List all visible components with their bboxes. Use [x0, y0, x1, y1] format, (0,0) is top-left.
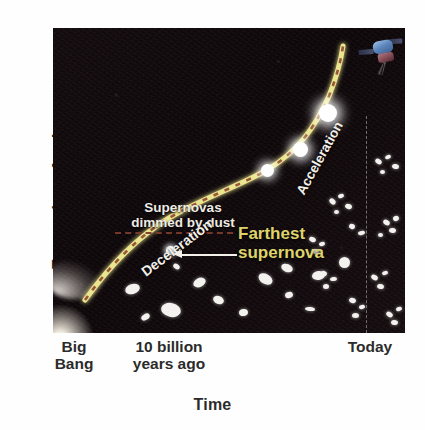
annotation-farthest-supernova: Farthest supernova — [238, 224, 324, 262]
farthest-line-1: Farthest — [238, 224, 305, 243]
annotation-dimmed-by-dust: Supernovas dimmed by dust — [113, 200, 253, 230]
supernova-star-icon — [261, 164, 274, 177]
infographic-root: Expansion of universe — [0, 0, 425, 430]
dimmed-line-2: dimmed by dust — [113, 215, 253, 230]
supernova-star-icon — [293, 142, 308, 157]
x-tick-big-bang-line2: Bang — [44, 355, 104, 372]
farthest-line-2: supernova — [238, 243, 324, 262]
expansion-curve-group — [53, 28, 405, 333]
craft-module — [377, 52, 394, 64]
x-tick-ten-billion-line2: years ago — [110, 355, 228, 372]
plot-panel: Supernovas dimmed by dust Deceleration A… — [53, 28, 405, 333]
dimmed-line-1: Supernovas — [144, 200, 221, 215]
callout-arrow-icon — [173, 250, 237, 259]
x-tick-big-bang: Big Bang — [44, 338, 104, 372]
x-tick-today: Today — [330, 338, 410, 355]
solar-panel-left — [358, 49, 373, 55]
x-tick-ten-billion: 10 billion years ago — [110, 338, 228, 372]
dust-dimming-dashed-line — [115, 232, 233, 234]
arrow-shaft — [181, 254, 237, 256]
x-tick-ten-billion-line1: 10 billion — [135, 338, 202, 355]
x-axis-title: Time — [0, 396, 425, 414]
x-tick-big-bang-line1: Big — [62, 338, 87, 355]
